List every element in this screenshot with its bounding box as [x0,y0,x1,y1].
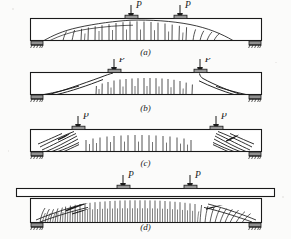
load-label-a-2: P [184,0,191,10]
caption-c: (c) [0,158,291,168]
support-b-left [31,95,43,102]
caption-b: (b) [0,103,291,113]
scan-speck [282,196,284,198]
scan-speck [275,62,277,63]
beam-outline-b [31,73,262,95]
load-label-c-2: P [220,113,227,121]
support-b-right [249,95,261,102]
panel-b: P P [0,58,291,108]
scan-speck [12,8,14,10]
load-label-b-1: P [118,58,125,64]
load-label-d-1: P [127,170,134,180]
load-label-b-2: P [204,58,211,64]
panel-a: P P [0,0,291,52]
beam-flange-d [17,189,275,197]
caption-a: (a) [0,47,291,57]
caption-d: (d) [0,222,291,232]
scan-speck [8,150,9,152]
figure-beam-crack-patterns: P P [0,0,291,239]
load-label-c-1: P [82,113,89,121]
load-label-d-2: P [194,170,201,180]
load-label-a-1: P [135,0,142,10]
